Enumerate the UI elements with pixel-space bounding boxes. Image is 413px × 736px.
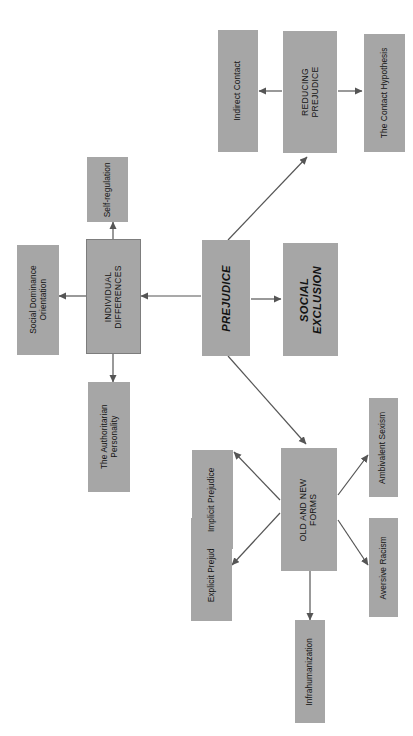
node-old-and-new-forms-label: OLD AND NEW FORMS	[299, 478, 319, 541]
edge-old-new-forms-explicit-prejudice	[232, 513, 280, 565]
edge-prejudice-old-and-new-forms	[228, 356, 306, 444]
node-ambivalent-sexism-label: Ambivalent Sexism	[379, 411, 389, 483]
node-prejudice[interactable]: PREJUDICE	[202, 240, 250, 356]
node-social-dominance-orientation-label: Social Dominance Orientation	[28, 266, 47, 334]
node-implicit-prejudice-label: Implicit Prejudice	[208, 467, 218, 532]
node-social-exclusion[interactable]: SOCIAL EXCLUSION	[283, 243, 338, 356]
node-indirect-contact-label: Indirect Contact	[233, 61, 243, 121]
node-self-regulation[interactable]: Self-regulation	[87, 157, 128, 222]
node-aversive-racism-label: Aversive Racism	[379, 536, 389, 599]
node-social-exclusion-label: SOCIAL EXCLUSION	[298, 266, 324, 334]
node-reducing-prejudice[interactable]: REDUCING PREJUDICE	[283, 31, 337, 153]
node-social-dominance-orientation[interactable]: Social Dominance Orientation	[17, 245, 59, 355]
node-indirect-contact[interactable]: Indirect Contact	[218, 30, 258, 152]
node-contact-hypothesis-label: The Contact Hypothesis	[380, 48, 390, 139]
node-infrahumanization[interactable]: Infrahumanization	[295, 620, 325, 723]
diagram-canvas: PREJUDICE SOCIAL EXCLUSION INDIVIDUAL DI…	[0, 0, 413, 736]
node-prejudice-label: PREJUDICE	[220, 265, 233, 332]
node-implicit-prejudice[interactable]: Implicit Prejudice	[192, 450, 233, 549]
edge-old-new-forms-implicit-prejudice	[234, 452, 280, 500]
node-self-regulation-label: Self-regulation	[103, 162, 113, 217]
node-authoritarian-personality-label: The Authoritarian Personality	[99, 405, 118, 470]
node-individual-differences[interactable]: INDIVIDUAL DIFFERENCES	[86, 239, 141, 354]
edge-prejudice-reducing-prejudice	[228, 157, 307, 240]
edge-old-new-forms-aversive-racism	[338, 520, 368, 565]
node-authoritarian-personality[interactable]: The Authoritarian Personality	[88, 382, 130, 492]
node-individual-differences-label: INDIVIDUAL DIFFERENCES	[104, 265, 124, 328]
node-contact-hypothesis[interactable]: The Contact Hypothesis	[364, 34, 405, 152]
edge-old-new-forms-ambivalent-sexism	[338, 455, 368, 495]
node-old-and-new-forms[interactable]: OLD AND NEW FORMS	[281, 448, 337, 571]
node-infrahumanization-label: Infrahumanization	[305, 638, 315, 706]
node-aversive-racism[interactable]: Aversive Racism	[369, 518, 398, 617]
node-reducing-prejudice-label: REDUCING PREJUDICE	[300, 67, 320, 118]
edge-layer	[0, 0, 413, 736]
node-ambivalent-sexism[interactable]: Ambivalent Sexism	[369, 398, 398, 497]
